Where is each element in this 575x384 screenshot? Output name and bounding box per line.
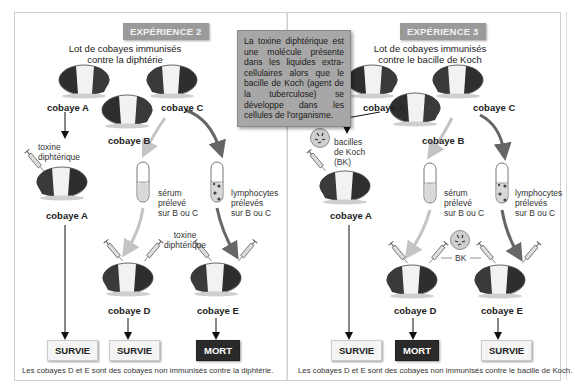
exp3-guinea-pig-a-injected bbox=[320, 171, 370, 205]
exp3-result-a: SURVIE bbox=[331, 340, 382, 361]
exp2-injection-de-label: toxine diphtérique bbox=[164, 230, 206, 250]
exp3-label-cobaye-a: cobaye A bbox=[363, 102, 405, 113]
exp2-syringes-d bbox=[104, 239, 164, 263]
exp2-label-cobaye-a: cobaye A bbox=[47, 102, 89, 113]
exp3-bk-circle-de bbox=[451, 231, 470, 250]
exp2-label-cobaye-b: cobaye B bbox=[108, 135, 150, 146]
exp3-serum-label: sérum prélevé sur B ou C bbox=[444, 188, 484, 218]
exp3-result-e: SURVIE bbox=[481, 340, 532, 361]
exp3-label-cobaye-c: cobaye C bbox=[473, 102, 515, 113]
exp2-guinea-pig-e bbox=[191, 263, 241, 297]
info-box: La toxine diphtérique est une molécule p… bbox=[237, 30, 351, 127]
exp2-badge: EXPÉRIENCE 2 bbox=[123, 23, 209, 40]
exp3-label-cobaye-b: cobaye B bbox=[422, 135, 464, 146]
exp2-label-cobaye-c: cobaye C bbox=[161, 102, 203, 113]
exp3-result-d: MORT bbox=[395, 340, 439, 361]
exp3-lymphocyte-tube bbox=[496, 163, 508, 203]
exp3-guinea-pig-a bbox=[347, 65, 397, 99]
exp3-serum-tube bbox=[424, 163, 436, 203]
exp3-bk-circle-a bbox=[311, 129, 330, 148]
exp2-caption: Lot de cobayes immunisés contre la dipht… bbox=[60, 43, 190, 65]
exp2-serum-tube bbox=[137, 162, 149, 202]
exp2-result-a: SURVIE bbox=[47, 340, 98, 361]
exp2-label-cobaye-e: cobaye E bbox=[197, 305, 239, 316]
exp3-caption-line1: Lot de cobayes immunisés bbox=[365, 43, 495, 54]
exp2-label-cobaye-a-bottom: cobaye A bbox=[46, 210, 88, 221]
exp2-note: Les cobayes D et E sont des cobayes non … bbox=[22, 366, 273, 375]
exp3-guinea-pig-c bbox=[433, 65, 483, 99]
exp3-note: Les cobayes D et E sont des cobayes non … bbox=[298, 366, 572, 375]
exp3-syringe-a bbox=[307, 149, 328, 173]
exp2-label-cobaye-d: cobaye D bbox=[108, 305, 150, 316]
exp3-label-cobaye-a-bottom: cobaye A bbox=[330, 210, 372, 221]
exp2-caption-line1: Lot de cobayes immunisés bbox=[60, 43, 190, 54]
exp3-injection-de-label: BK bbox=[455, 253, 466, 263]
exp2-result-d: SURVIE bbox=[109, 340, 160, 361]
exp3-syringes-d bbox=[389, 241, 449, 265]
exp2-serum-label: sérum prélevé sur B ou C bbox=[158, 188, 198, 218]
exp3-lymphocytes-label: lymphocytes prélevés sur B ou C bbox=[515, 188, 562, 218]
exp2-result-e: MORT bbox=[196, 340, 240, 361]
exp3-injection-a-label: bacilles de Koch (BK) bbox=[334, 137, 365, 167]
exp3-label-cobaye-d: cobaye D bbox=[394, 305, 436, 316]
exp2-lymphocyte-tube bbox=[211, 162, 223, 202]
exp2-injection-a-label: toxine diphtérique bbox=[38, 142, 80, 162]
exp3-caption: Lot de cobayes immunisés contre le bacil… bbox=[365, 43, 495, 65]
exp3-badge: EXPÉRIENCE 3 bbox=[400, 23, 486, 40]
exp3-guinea-pig-d bbox=[387, 265, 437, 299]
exp2-lymphocytes-label: lymphocytes prélevés sur B ou C bbox=[231, 188, 278, 218]
exp3-caption-line2: contre le bacille de Koch bbox=[365, 54, 495, 65]
exp2-caption-line2: contre la diphtérie bbox=[60, 54, 190, 65]
exp3-guinea-pig-e bbox=[475, 265, 525, 299]
exp2-guinea-pig-d bbox=[103, 263, 153, 297]
exp2-guinea-pig-b bbox=[102, 95, 152, 129]
exp2-guinea-pig-c bbox=[147, 65, 197, 99]
exp3-syringes-e bbox=[477, 241, 542, 265]
exp2-guinea-pig-a bbox=[59, 65, 109, 99]
exp2-guinea-pig-a-injected bbox=[37, 167, 87, 201]
exp3-label-cobaye-e: cobaye E bbox=[481, 305, 523, 316]
